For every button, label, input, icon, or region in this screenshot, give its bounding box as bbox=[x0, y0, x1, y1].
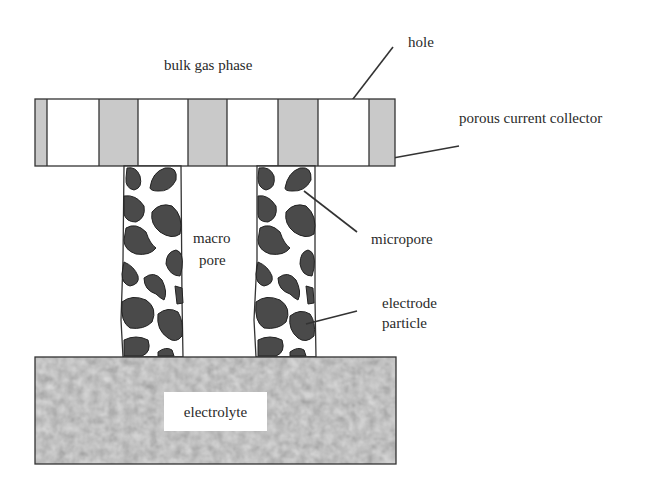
porous-electrode-diagram: bulk gas phase hole porous current colle… bbox=[0, 0, 660, 492]
electrode-pillar-right bbox=[254, 166, 316, 357]
collector-hole bbox=[227, 99, 278, 166]
electrode-particle-label-line2: particle bbox=[382, 315, 427, 331]
collector-hole bbox=[318, 99, 369, 166]
hole-label: hole bbox=[408, 34, 434, 50]
collector-hole bbox=[47, 99, 99, 166]
collector-solid-segment bbox=[188, 99, 227, 166]
micropore-label: micropore bbox=[371, 231, 433, 247]
electrode-particle-label-line1: electrode bbox=[382, 295, 437, 311]
electrode-pillar-left bbox=[121, 166, 183, 357]
bulk-gas-phase-label: bulk gas phase bbox=[164, 57, 253, 73]
macropore-label-line2: pore bbox=[199, 252, 226, 268]
collector-solid-segment bbox=[278, 99, 318, 166]
electrolyte-layer: electrolyte bbox=[35, 357, 396, 464]
collector-solid-segment bbox=[35, 99, 47, 166]
macropore-label-line1: macro bbox=[193, 230, 230, 246]
electrolyte-label: electrolyte bbox=[184, 404, 248, 420]
collector-solid-segment bbox=[369, 99, 395, 166]
current-collector bbox=[35, 99, 395, 166]
collector-solid-segment bbox=[99, 99, 138, 166]
collector-hole bbox=[138, 99, 188, 166]
porous-current-collector-label: porous current collector bbox=[459, 110, 602, 126]
